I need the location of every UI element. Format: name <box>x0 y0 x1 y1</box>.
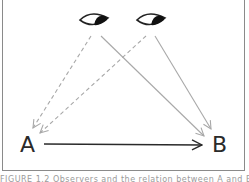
edge-eye-right-to-a <box>40 36 146 133</box>
eye-icon <box>137 14 165 25</box>
edge-eye-left-to-b <box>101 36 204 136</box>
figure-caption: FIGURE 1.2 Observers and the relation be… <box>0 175 249 182</box>
edge-eye-left-to-a <box>33 36 91 128</box>
node-a-label: A <box>20 134 35 156</box>
edge-a-to-b <box>44 144 202 145</box>
eye-icon <box>80 14 108 25</box>
node-b-label: B <box>212 134 227 156</box>
